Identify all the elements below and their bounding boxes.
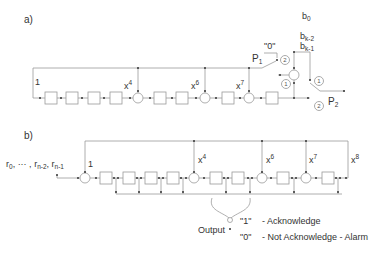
part-a-input-tap-label: 1 [35,78,40,87]
switch-name: P [252,53,259,64]
switch-sub: 2 [335,101,339,108]
seq-separator: , ··· , [13,159,32,169]
input-sequence: r0, ··· , rn-2, rn-1 [6,160,64,171]
tap-exponent: 8 [356,153,360,160]
tap-exponent: 7 [314,153,318,160]
adder-side-pos-1: 1 [281,79,291,89]
bit-sub: k-1 [305,45,314,52]
part-b-input-tap-label: 1 [88,160,93,169]
seq-sub: n-2 [37,163,46,170]
part-a-tap-x6: x6 [191,80,199,91]
switch-sub: 1 [259,58,263,65]
tap-exponent: 4 [203,153,207,160]
part-a-label: a) [24,15,33,25]
tap-exponent: 7 [241,79,245,86]
switch-p1-label: P1 [252,54,262,66]
part-a-circuit [33,51,345,104]
switch-p1-pos-2: 2 [280,55,290,65]
part-b-tap-x4: x4 [198,154,206,165]
legend-ack-value: "1" [240,217,251,226]
part-a-tap-x7: x7 [236,80,244,91]
tap-exponent: 6 [196,79,200,86]
legend-nack-value: "0" [240,233,251,242]
switch-p2-pos-1: 1 [314,76,324,86]
circuit-diagram [0,0,385,253]
part-b-tap-x6: x6 [266,154,274,165]
tap-exponent: 4 [129,79,133,86]
output-label: Output [198,226,225,235]
switch-p2-label: P2 [328,97,338,109]
switch-name: P [328,96,335,107]
part-a-tap-x4: x4 [124,80,132,91]
switch-p1-const-label: "0" [264,42,275,51]
legend-ack-text: - Acknowledge [262,217,321,226]
part-b-tap-x7: x7 [309,154,317,165]
tap-exponent: 6 [271,153,275,160]
bit-sub: 0 [307,15,311,22]
bit-sub: k-2 [305,35,314,42]
part-b-label: b) [24,131,33,141]
part-b-tap-x8: x8 [351,154,359,165]
bit-bk-1: bk-1 [300,42,314,53]
seq-sub: n-1 [55,163,64,170]
legend-nack-text: - Not Acknowledge - Alarm [262,233,368,242]
switch-p2-pos-2: 2 [314,101,324,111]
bit-b0: b0 [302,12,311,23]
